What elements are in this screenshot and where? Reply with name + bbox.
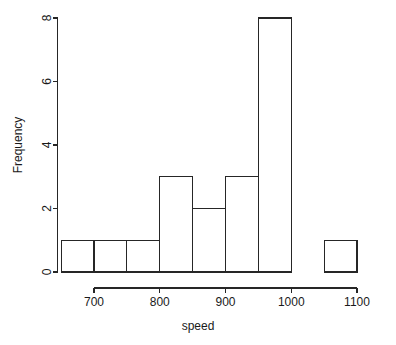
histogram-bar bbox=[226, 177, 259, 272]
x-tick-label: 1100 bbox=[344, 295, 370, 309]
x-tick-label: 1000 bbox=[278, 295, 305, 309]
y-tick-labels: 02468 bbox=[40, 14, 54, 275]
y-tick-label: 6 bbox=[40, 78, 54, 85]
x-tick-labels: 70080090010001100 bbox=[84, 295, 370, 309]
y-tick-label: 8 bbox=[40, 14, 54, 21]
y-tick-label: 4 bbox=[40, 141, 54, 148]
histogram-plot: 02468 70080090010001100 speed Frequency bbox=[0, 0, 396, 345]
plot-canvas: 02468 70080090010001100 speed Frequency bbox=[0, 0, 396, 345]
histogram-bar bbox=[127, 240, 160, 272]
x-tick-label: 800 bbox=[150, 295, 170, 309]
histogram-bar bbox=[324, 240, 357, 272]
histogram-bar bbox=[61, 240, 94, 272]
histogram-bar bbox=[160, 177, 193, 272]
x-axis bbox=[94, 288, 357, 293]
histogram-bar bbox=[258, 18, 291, 272]
y-axis-title: Frequency bbox=[11, 117, 25, 174]
x-tick-label: 700 bbox=[84, 295, 104, 309]
x-tick-label: 900 bbox=[215, 295, 235, 309]
x-axis-title: speed bbox=[182, 319, 215, 333]
y-tick-label: 2 bbox=[40, 205, 54, 212]
y-tick-label: 0 bbox=[40, 268, 54, 275]
histogram-bar bbox=[94, 240, 127, 272]
histogram-bar bbox=[193, 209, 226, 273]
histogram-bars bbox=[61, 18, 357, 272]
